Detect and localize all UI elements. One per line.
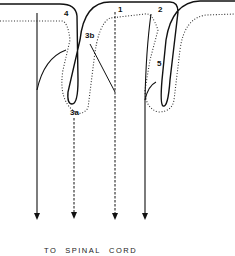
- label-3a: 3a: [70, 109, 79, 117]
- caption-word-to: TO: [44, 246, 57, 255]
- epidermis-dotted-outline: [0, 14, 235, 114]
- nerve-fiber-3a: [71, 118, 77, 219]
- label-2: 2: [158, 6, 162, 14]
- caption-word-cord: CORD: [109, 246, 137, 255]
- nerve-fiber-2-5: [142, 14, 156, 220]
- label-1: 1: [118, 6, 122, 14]
- nerve-fiber-1-3b: [90, 12, 118, 220]
- caption-word-spinal: SPINAL: [65, 246, 101, 255]
- skin-nerve-diagram: [0, 0, 235, 256]
- caption-to-spinal-cord: TOSPINALCORD: [44, 246, 145, 255]
- label-3b: 3b: [85, 32, 94, 40]
- nerve-fiber-4: [34, 13, 66, 220]
- label-4: 4: [64, 10, 68, 18]
- label-5: 5: [157, 60, 161, 68]
